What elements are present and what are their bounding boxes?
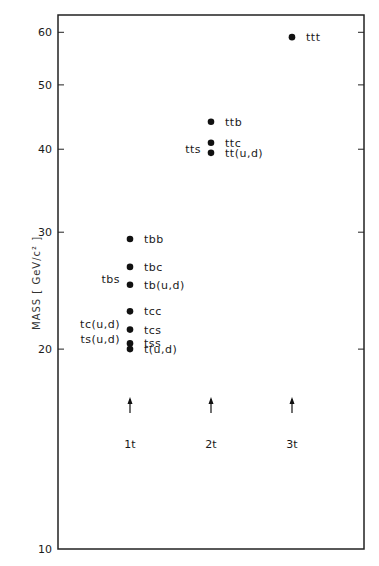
data-point bbox=[289, 34, 296, 41]
y-tick-label: 60 bbox=[38, 26, 52, 39]
point-label: tbs bbox=[101, 273, 120, 286]
point-label: ttb bbox=[225, 116, 242, 129]
category-label: 2t bbox=[205, 438, 217, 451]
y-tick-label: 10 bbox=[38, 543, 52, 556]
data-points: tbbtbctbstb(u,d)tcctc(u,d)tcsts(u,d)tsst… bbox=[80, 31, 321, 356]
data-point bbox=[127, 264, 134, 271]
data-point bbox=[208, 150, 215, 157]
arrow-head-icon bbox=[290, 397, 295, 404]
y-axis-label: MASS [ GeV/c² ] bbox=[31, 236, 42, 330]
y-tick-label: 40 bbox=[38, 143, 52, 156]
y-axis: 102030405060 bbox=[38, 26, 364, 556]
data-point bbox=[127, 308, 134, 315]
data-point bbox=[127, 346, 134, 353]
data-point bbox=[208, 118, 215, 125]
point-label: tb(u,d) bbox=[144, 279, 185, 292]
category-label: 3t bbox=[286, 438, 298, 451]
point-label: tbb bbox=[144, 233, 164, 246]
category-label: 1t bbox=[124, 438, 136, 451]
data-point bbox=[208, 140, 215, 147]
arrow-head-icon bbox=[128, 397, 133, 404]
data-point bbox=[127, 281, 134, 288]
data-point bbox=[127, 326, 134, 333]
data-point bbox=[127, 340, 134, 347]
point-label: tcc bbox=[144, 305, 162, 318]
y-tick-label: 50 bbox=[38, 79, 52, 92]
point-label: tc(u,d) bbox=[80, 318, 120, 331]
point-label: tts bbox=[185, 143, 201, 156]
category-markers: 1t2t3t bbox=[124, 397, 298, 451]
point-label: t(u,d) bbox=[144, 343, 177, 356]
point-label: ttt bbox=[306, 31, 321, 44]
point-label: tcs bbox=[144, 324, 162, 337]
point-label: tbc bbox=[144, 261, 163, 274]
arrow-head-icon bbox=[209, 397, 214, 404]
point-label: ts(u,d) bbox=[80, 333, 120, 346]
mass-chart: 102030405060 MASS [ GeV/c² ] tbbtbctbstb… bbox=[0, 0, 379, 566]
y-tick-label: 20 bbox=[38, 343, 52, 356]
data-point bbox=[127, 236, 134, 243]
point-label: tt(u,d) bbox=[225, 147, 263, 160]
